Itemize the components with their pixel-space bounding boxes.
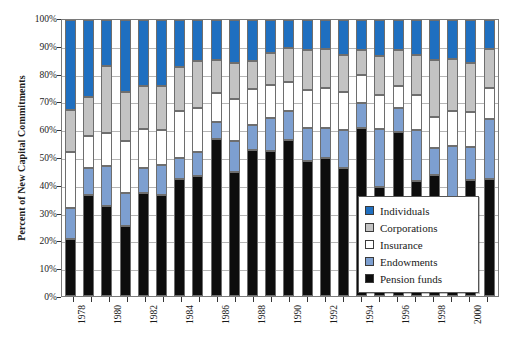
bar-segment-individuals	[65, 20, 76, 110]
bar-segment-endowments	[101, 166, 112, 206]
bar-segment-corporations	[447, 59, 458, 111]
bar-segment-pension-funds	[83, 195, 94, 296]
bar-1988	[247, 20, 258, 296]
x-tick-mark	[145, 297, 146, 302]
legend-label: Individuals	[380, 205, 430, 217]
legend-item-individuals[interactable]: Individuals	[365, 202, 472, 219]
bar-segment-corporations	[374, 56, 385, 95]
y-tick-label: 10%	[5, 264, 57, 274]
bar-1982	[138, 20, 149, 296]
bar-segment-corporations	[356, 50, 367, 75]
legend-swatch-icon	[365, 257, 374, 266]
legend-item-corporations[interactable]: Corporations	[365, 219, 472, 236]
x-tick-label: 1986	[221, 305, 231, 324]
bar-segment-individuals	[192, 20, 203, 61]
bar-1993	[338, 20, 349, 296]
bar-segment-pension-funds	[211, 139, 222, 296]
bar-segment-individuals	[265, 20, 276, 53]
x-tick-label: 1982	[149, 305, 159, 324]
bar-segment-insurance	[283, 82, 294, 111]
bar-segment-endowments	[411, 130, 422, 181]
x-tick-mark	[289, 297, 290, 302]
bar-segment-pension-funds	[283, 140, 294, 296]
bar-segment-endowments	[338, 130, 349, 167]
bar-segment-insurance	[429, 117, 440, 149]
bar-segment-individuals	[393, 20, 404, 50]
y-tick-label: 30%	[5, 209, 57, 219]
y-tick-label: 80%	[5, 70, 57, 80]
bar-segment-endowments	[65, 208, 76, 240]
bar-segment-corporations	[229, 63, 240, 99]
bar-segment-pension-funds	[320, 158, 331, 296]
bar-segment-endowments	[120, 193, 131, 226]
bar-segment-insurance	[120, 141, 131, 192]
bar-segment-insurance	[374, 95, 385, 130]
bar-segment-corporations	[120, 92, 131, 142]
bar-segment-insurance	[211, 93, 222, 122]
bar-segment-pension-funds	[484, 179, 495, 296]
x-tick-label: 1978	[77, 305, 87, 324]
bar-segment-pension-funds	[192, 176, 203, 296]
legend-label: Pension funds	[380, 273, 442, 285]
x-tick-mark	[91, 297, 92, 302]
bar-segment-individuals	[338, 20, 349, 55]
bar-segment-corporations	[192, 61, 203, 108]
legend-item-pension-funds[interactable]: Pension funds	[365, 270, 472, 287]
legend-item-endowments[interactable]: Endowments	[365, 253, 472, 270]
bar-segment-endowments	[283, 111, 294, 140]
bar-segment-endowments	[484, 119, 495, 178]
bar-1978	[65, 20, 76, 296]
bar-segment-corporations	[83, 97, 94, 136]
bar-segment-insurance	[411, 95, 422, 131]
x-axis-ticks: 1978198019821984198619881990199219941996…	[61, 297, 499, 357]
bar-segment-individuals	[156, 20, 167, 86]
bar-segment-corporations	[465, 63, 476, 113]
bar-1979	[83, 20, 94, 296]
bar-segment-endowments	[83, 168, 94, 196]
bar-segment-pension-funds	[101, 206, 112, 296]
bar-segment-corporations	[411, 55, 422, 95]
y-tick-label: 100%	[5, 14, 57, 24]
x-tick-label: 1988	[257, 305, 267, 324]
bar-segment-pension-funds	[338, 168, 349, 296]
x-tick-mark	[343, 297, 344, 302]
bar-segment-individuals	[374, 20, 385, 56]
bar-segment-corporations	[138, 86, 149, 129]
bar-segment-individuals	[465, 20, 476, 63]
bar-segment-individuals	[356, 20, 367, 50]
bar-segment-pension-funds	[156, 195, 167, 296]
x-tick-mark	[127, 297, 128, 302]
bar-segment-corporations	[101, 66, 112, 134]
bar-segment-individuals	[120, 20, 131, 92]
bar-1987	[229, 20, 240, 296]
bar-segment-individuals	[484, 20, 495, 49]
bar-segment-corporations	[283, 48, 294, 83]
x-tick-mark	[451, 297, 452, 302]
bar-1990	[283, 20, 294, 296]
bar-segment-corporations	[265, 53, 276, 85]
legend-label: Insurance	[380, 239, 423, 251]
bar-segment-insurance	[247, 89, 258, 125]
legend-item-insurance[interactable]: Insurance	[365, 236, 472, 253]
bar-segment-endowments	[247, 125, 258, 150]
bar-segment-insurance	[447, 111, 458, 146]
bar-1991	[302, 20, 313, 296]
bar-segment-pension-funds	[174, 179, 185, 296]
bar-segment-endowments	[265, 118, 276, 151]
bar-segment-corporations	[247, 61, 258, 89]
bar-segment-endowments	[211, 122, 222, 139]
chart-legend: IndividualsCorporationsInsuranceEndowmen…	[358, 196, 479, 293]
x-tick-label: 1994	[365, 305, 375, 324]
bar-segment-endowments	[374, 129, 385, 187]
bar-segment-corporations	[338, 55, 349, 92]
x-tick-mark	[325, 297, 326, 302]
bar-segment-insurance	[465, 112, 476, 147]
x-tick-mark	[253, 297, 254, 302]
bar-segment-insurance	[101, 133, 112, 166]
x-tick-mark	[415, 297, 416, 302]
bar-segment-individuals	[302, 20, 313, 50]
y-axis-ticks: 0%10%20%30%40%50%60%70%80%90%100%	[0, 19, 57, 297]
bar-segment-insurance	[320, 88, 331, 128]
x-tick-mark	[487, 297, 488, 302]
y-tick-label: 40%	[5, 181, 57, 191]
